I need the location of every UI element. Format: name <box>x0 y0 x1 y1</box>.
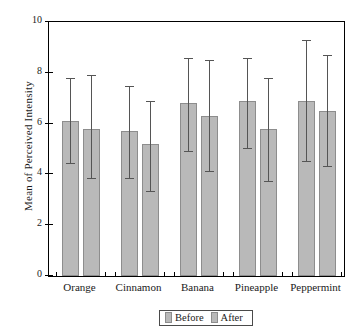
error-cap-top <box>302 40 311 41</box>
error-cap-bottom <box>66 163 75 164</box>
y-tick-label: 6 <box>24 116 42 127</box>
error-cap-bottom <box>264 181 273 182</box>
x-axis-tick <box>164 272 165 277</box>
y-tick-mark-right <box>48 224 53 225</box>
bar-group <box>294 22 340 276</box>
y-tick-mark-right <box>48 21 53 22</box>
y-tick-mark-right <box>48 173 53 174</box>
error-bar-after <box>327 55 328 167</box>
error-cap-top <box>146 101 155 102</box>
legend-label-after: After <box>221 312 243 323</box>
error-bar-before <box>70 78 71 164</box>
y-tick-mark-right <box>48 275 53 276</box>
y-axis-title: Mean of Perceived Intensity <box>22 61 34 231</box>
error-cap-bottom <box>205 171 214 172</box>
y-tick-mark-right <box>48 123 53 124</box>
x-axis-tick <box>233 272 234 277</box>
error-cap-top <box>205 60 214 61</box>
error-cap-bottom <box>243 148 252 149</box>
error-cap-top <box>323 55 332 56</box>
legend-swatch-before <box>165 312 172 323</box>
legend-swatch-after <box>211 312 218 323</box>
chart-legend: Before After <box>159 310 253 326</box>
chart-figure: Mean of Perceived Intensity 0246810 Befo… <box>0 0 361 336</box>
x-axis-tick <box>282 272 283 277</box>
x-axis-tick <box>115 272 116 277</box>
legend-label-before: Before <box>175 312 204 323</box>
error-cap-bottom <box>184 151 193 152</box>
y-tick-label: 10 <box>24 14 42 25</box>
error-bar-before <box>129 86 130 180</box>
y-tick-label: 0 <box>24 268 42 279</box>
error-cap-bottom <box>87 178 96 179</box>
x-axis-tick <box>105 272 106 277</box>
error-cap-bottom <box>323 166 332 167</box>
error-bar-before <box>306 40 307 162</box>
plot-area: 0246810 <box>48 21 345 277</box>
y-tick-label: 8 <box>24 65 42 76</box>
error-cap-top <box>87 75 96 76</box>
error-bar-before <box>188 58 189 152</box>
error-cap-bottom <box>125 178 134 179</box>
x-axis-tick <box>341 272 342 277</box>
y-tick-label: 4 <box>24 166 42 177</box>
bar-group <box>117 22 163 276</box>
bar-group <box>235 22 281 276</box>
error-cap-top <box>264 78 273 79</box>
error-bar-after <box>268 78 269 182</box>
error-cap-top <box>184 58 193 59</box>
y-tick-label: 2 <box>24 217 42 228</box>
error-bar-after <box>150 101 151 192</box>
error-cap-top <box>66 78 75 79</box>
x-axis-tick <box>174 272 175 277</box>
error-bar-after <box>91 75 92 179</box>
x-axis-tick <box>223 272 224 277</box>
error-cap-top <box>243 58 252 59</box>
error-bar-before <box>247 58 248 149</box>
error-cap-top <box>125 86 134 87</box>
error-cap-bottom <box>146 191 155 192</box>
y-tick-mark-right <box>48 72 53 73</box>
x-axis-tick <box>292 272 293 277</box>
bar-group <box>176 22 222 276</box>
bar-group <box>58 22 104 276</box>
x-axis-tick <box>56 272 57 277</box>
error-cap-bottom <box>302 161 311 162</box>
x-axis-label: Peppermint <box>271 281 361 293</box>
error-bar-after <box>209 60 210 172</box>
